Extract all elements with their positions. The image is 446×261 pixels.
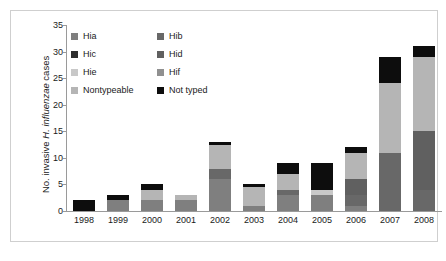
bar-segment[interactable] <box>141 190 162 201</box>
legend-label: Hia <box>83 31 97 41</box>
bar-segment[interactable] <box>345 195 366 206</box>
y-axis-tick-label: 5 <box>37 179 63 189</box>
y-axis-tick-label: 10 <box>37 153 63 163</box>
bar-segment[interactable] <box>311 195 332 211</box>
legend-item[interactable]: Hif <box>157 67 249 77</box>
x-axis-tick-label: 1999 <box>108 215 128 225</box>
y-axis-tick-label: 35 <box>37 20 63 30</box>
bar-group[interactable] <box>413 46 434 211</box>
legend-item[interactable]: Hib <box>157 31 249 41</box>
legend-label: Hib <box>169 31 183 41</box>
bar-segment[interactable] <box>209 169 230 180</box>
legend-item[interactable]: Hid <box>157 49 249 59</box>
bar-segment[interactable] <box>73 200 94 211</box>
y-axis-tick-label: 25 <box>37 73 63 83</box>
bar-segment[interactable] <box>209 179 230 211</box>
legend-label: Hif <box>169 67 180 77</box>
y-axis-tick-label: 15 <box>37 126 63 136</box>
x-axis-tick-label: 2006 <box>346 215 366 225</box>
bar-group[interactable] <box>209 142 230 211</box>
bar-segment[interactable] <box>209 145 230 169</box>
bar-segment[interactable] <box>277 195 298 211</box>
legend-label: Hid <box>169 49 183 59</box>
x-axis-tick-label: 2001 <box>176 215 196 225</box>
bar-segment[interactable] <box>413 46 434 57</box>
figure: No. invasive H. influenzae cases 0510152… <box>0 0 446 261</box>
legend: HiaHibHicHidHieHifNontypeableNot typed <box>71 27 249 101</box>
x-axis-tick-label: 1998 <box>74 215 94 225</box>
y-axis-tick-label: 0 <box>37 206 63 216</box>
x-axis-line <box>66 211 442 212</box>
legend-swatch-icon <box>157 87 164 94</box>
bar-segment[interactable] <box>379 83 400 152</box>
bar-segment[interactable] <box>107 200 128 211</box>
bar-segment[interactable] <box>243 187 264 206</box>
legend-swatch-icon <box>157 69 164 76</box>
legend-item[interactable]: Hic <box>71 49 157 59</box>
bar-group[interactable] <box>73 200 94 211</box>
x-axis-tick-label: 2007 <box>380 215 400 225</box>
bar-segment[interactable] <box>311 163 332 190</box>
bar-group[interactable] <box>379 57 400 211</box>
x-axis-tick-label: 2004 <box>278 215 298 225</box>
legend-label: Hic <box>83 49 96 59</box>
legend-swatch-icon <box>157 51 164 58</box>
x-axis-tick-label: 2002 <box>210 215 230 225</box>
x-axis-tick-labels: 1998199920002001200220032004200520062007… <box>67 215 441 231</box>
x-axis-tick-label: 2008 <box>414 215 434 225</box>
bar-segment[interactable] <box>413 131 434 189</box>
bar-group[interactable] <box>311 163 332 211</box>
y-axis-tick-label: 20 <box>37 100 63 110</box>
bar-group[interactable] <box>345 147 366 211</box>
bar-segment[interactable] <box>413 57 434 131</box>
legend-swatch-icon <box>71 69 78 76</box>
bar-segment[interactable] <box>345 179 366 195</box>
legend-label: Hie <box>83 67 97 77</box>
bar-segment[interactable] <box>413 190 434 211</box>
x-axis-tick-label: 2005 <box>312 215 332 225</box>
bar-segment[interactable] <box>277 174 298 190</box>
legend-swatch-icon <box>157 33 164 40</box>
chart-frame: No. invasive H. influenzae cases 0510152… <box>10 10 438 242</box>
legend-swatch-icon <box>71 51 78 58</box>
bar-segment[interactable] <box>141 200 162 211</box>
bar-segment[interactable] <box>345 153 366 180</box>
bar-segment[interactable] <box>277 163 298 174</box>
legend-label: Not typed <box>169 85 208 95</box>
bar-group[interactable] <box>107 195 128 211</box>
legend-item[interactable]: Hia <box>71 31 157 41</box>
legend-label: Nontypeable <box>83 85 134 95</box>
legend-item[interactable]: Hie <box>71 67 157 77</box>
bar-segment[interactable] <box>379 153 400 211</box>
bar-segment[interactable] <box>175 200 196 211</box>
y-axis-tick-labels: 05101520253035 <box>37 25 63 211</box>
bar-segment[interactable] <box>379 57 400 84</box>
bar-group[interactable] <box>141 184 162 211</box>
legend-swatch-icon <box>71 87 78 94</box>
legend-item[interactable]: Not typed <box>157 85 249 95</box>
x-axis-tick-label: 2000 <box>142 215 162 225</box>
x-axis-tick-label: 2003 <box>244 215 264 225</box>
y-axis-tick-label: 30 <box>37 47 63 57</box>
bar-group[interactable] <box>277 163 298 211</box>
bar-group[interactable] <box>243 184 264 211</box>
legend-item[interactable]: Nontypeable <box>71 85 157 95</box>
bar-group[interactable] <box>175 195 196 211</box>
legend-swatch-icon <box>71 33 78 40</box>
